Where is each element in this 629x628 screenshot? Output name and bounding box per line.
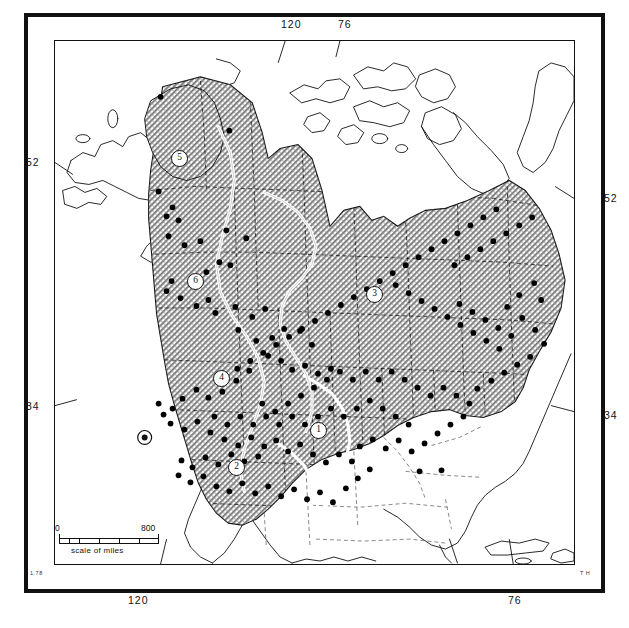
jamaica: [515, 558, 531, 564]
collection-point: [194, 303, 200, 309]
collection-point: [422, 441, 428, 447]
meridian-n: [531, 376, 533, 418]
collection-point: [480, 214, 486, 220]
collection-point: [337, 369, 343, 375]
collection-point: [367, 466, 373, 472]
collection-point: [215, 461, 221, 467]
collection-point: [247, 358, 253, 364]
collection-point: [532, 327, 538, 333]
collection-point: [330, 499, 336, 505]
collection-point: [304, 496, 310, 502]
collection-point: [156, 189, 162, 195]
collection-point: [232, 304, 238, 310]
scale-tick-1: [99, 538, 100, 544]
collection-point: [468, 222, 474, 228]
scale-tick-3: [139, 538, 140, 544]
latitude-label-right-52: 52: [604, 192, 618, 204]
collection-point: [495, 325, 501, 331]
florida-west: [440, 545, 452, 563]
collection-point: [416, 254, 422, 260]
collection-point: [239, 480, 245, 486]
tick-top-120: [278, 41, 285, 63]
collection-point: [234, 366, 240, 372]
collection-point: [227, 262, 233, 268]
collection-point: [263, 414, 269, 420]
baffin-island: [422, 113, 510, 195]
collection-point: [206, 395, 212, 401]
collection-point: [208, 430, 214, 436]
collection-point: [249, 314, 255, 320]
collection-point: [323, 459, 329, 465]
collection-point: [503, 230, 509, 236]
cuba: [485, 539, 549, 555]
collection-point: [354, 406, 360, 412]
collection-point: [311, 385, 317, 391]
collection-point: [164, 288, 170, 294]
collection-point: [315, 414, 321, 420]
collection-point: [309, 342, 315, 348]
island-prince-patrick: [304, 113, 330, 133]
collection-point: [221, 437, 227, 443]
island-small-b: [108, 110, 118, 128]
collection-point: [158, 94, 164, 100]
collection-point: [490, 238, 496, 244]
collection-point: [204, 269, 210, 275]
collection-point: [176, 472, 182, 478]
collection-point: [477, 246, 483, 252]
collection-point: [286, 334, 292, 340]
region-badge-1[interactable]: 1: [310, 422, 327, 439]
melville-island: [354, 63, 416, 91]
collection-point: [380, 406, 386, 412]
collection-point: [253, 338, 259, 344]
baffin-island-north: [422, 107, 462, 145]
collection-point: [514, 362, 520, 368]
collection-point: [169, 278, 175, 284]
collection-point: [409, 449, 415, 455]
collection-point: [297, 442, 303, 448]
collection-point: [428, 393, 434, 399]
collection-point: [461, 414, 467, 420]
collection-point: [190, 464, 196, 470]
tick-bottom-76: [509, 539, 513, 564]
collection-point: [252, 490, 258, 496]
island-boothia: [396, 145, 408, 153]
collection-point: [265, 353, 271, 359]
collection-point: [516, 222, 522, 228]
collection-point: [496, 346, 502, 352]
region-badge-2[interactable]: 2: [228, 459, 245, 476]
collection-point: [325, 310, 331, 316]
collection-point: [483, 338, 489, 344]
hispaniola: [551, 549, 574, 563]
island-king-william: [338, 125, 364, 145]
collection-point: [482, 317, 488, 323]
collection-point: [213, 483, 219, 489]
collection-point: [439, 467, 445, 473]
scale-tick-2: [119, 538, 120, 544]
collection-point: [272, 409, 278, 415]
collection-point: [529, 214, 535, 220]
collection-point: [370, 437, 376, 443]
collection-point: [317, 489, 323, 495]
region-badge-5[interactable]: 5: [171, 150, 188, 167]
collection-point: [519, 315, 525, 321]
region-badge-4[interactable]: 4: [213, 370, 230, 387]
collection-point: [170, 406, 176, 412]
collection-point: [406, 422, 412, 428]
collection-point: [527, 354, 533, 360]
longitude-label-bottom-120: 120: [128, 594, 149, 606]
collection-point: [298, 393, 304, 399]
region-badge-6[interactable]: 6: [187, 273, 204, 290]
tick-left-34: [55, 400, 77, 406]
collection-point: [273, 438, 279, 444]
scale-min-label: 0: [55, 523, 60, 533]
collection-point: [233, 378, 239, 384]
region-badge-3[interactable]: 3: [366, 286, 383, 303]
collection-point: [260, 350, 266, 356]
florida-peninsula: [449, 539, 457, 563]
scale-caption: scale of miles: [71, 546, 124, 555]
collection-point: [457, 301, 463, 307]
collection-point: [467, 401, 473, 407]
collection-point: [389, 369, 395, 375]
collection-point: [454, 393, 460, 399]
collection-point: [351, 294, 357, 300]
